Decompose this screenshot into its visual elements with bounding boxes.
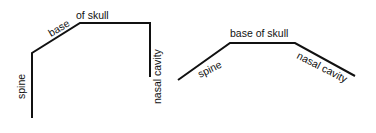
- right-diagram: spine base of skull nasal cavity: [178, 27, 355, 85]
- left-diagram: spine base of skull nasal cavity: [15, 9, 163, 118]
- left-skull-outline: [32, 23, 150, 118]
- right-label-spine: spine: [196, 58, 224, 80]
- right-label-nasal-cavity: nasal cavity: [295, 49, 350, 85]
- left-label-of-skull: of skull: [76, 9, 109, 21]
- right-label-base-of-skull: base of skull: [230, 27, 288, 39]
- left-label-nasal-cavity: nasal cavity: [151, 48, 163, 104]
- diagram-canvas: spine base of skull nasal cavity spine b…: [0, 0, 376, 133]
- left-label-spine: spine: [15, 74, 27, 99]
